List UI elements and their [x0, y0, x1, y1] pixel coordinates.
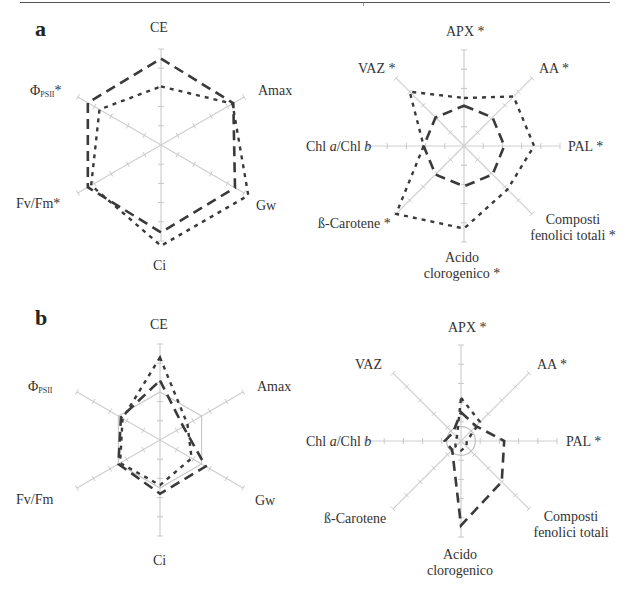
axis-label-acido: Acidoclorogenico * — [412, 250, 512, 282]
axis-label-carotene-b: ß-Carotene — [324, 511, 386, 527]
axis-label-pal-b: PAL * — [566, 434, 601, 450]
axis-label-aa: AA * — [539, 61, 569, 77]
series-dashed — [118, 380, 205, 493]
series-dotted — [91, 86, 248, 245]
axis-label-amax-b: Amax — [257, 379, 291, 395]
axis-label-gw: Gw — [256, 198, 276, 214]
axis-label-ce-b: CE — [150, 317, 168, 333]
axis-label-vaz: VAZ * — [358, 61, 395, 77]
series-dotted — [120, 357, 191, 485]
axis-label-ce: CE — [150, 20, 168, 36]
axis-label-chl: Chl a/Chl b — [306, 139, 371, 155]
axis-label-ci-b: Ci — [153, 553, 166, 569]
axis-label-phipsii-b: ΦPSII — [28, 379, 52, 399]
axis-label-chl-b: Chl a/Chl b — [306, 434, 371, 450]
axis-label-apx-b: APX * — [448, 320, 487, 336]
axis-label-gw-b: Gw — [255, 493, 275, 509]
axis-line — [78, 97, 161, 145]
axis-label-phipsii: ΦPSII* — [30, 83, 61, 103]
axis-line — [396, 146, 464, 214]
axis-line — [161, 145, 244, 193]
axis-label-composti: Compostifenolici totali * — [523, 212, 623, 244]
axis-line — [396, 78, 464, 146]
axis-line — [464, 78, 532, 146]
axis-label-composti-b: Compostifenolici totali — [521, 509, 621, 541]
radar-chart-1 — [76, 49, 248, 246]
axis-label-carotene: ß-Carotene * — [318, 216, 391, 232]
radar-chart-3 — [75, 344, 244, 536]
axis-label-vaz-b: VAZ — [355, 357, 382, 373]
axis-line — [464, 146, 532, 214]
axis-label-ci: Ci — [153, 258, 166, 274]
axis-label-fvfm: Fv/Fm* — [16, 196, 60, 212]
axis-label-fvfm-b: Fv/Fm — [16, 492, 53, 508]
axis-line — [78, 145, 161, 193]
axis-label-aa-b: AA * — [537, 357, 567, 373]
radar-charts-svg — [0, 0, 632, 589]
axis-label-amax: Amax — [258, 83, 292, 99]
panel-letter-b: b — [35, 305, 47, 331]
axis-label-apx: APX * — [446, 24, 485, 40]
axis-label-acido-b: Acidoclorogenico — [410, 547, 510, 579]
axis-label-pal: PAL * — [568, 139, 603, 155]
panel-letter-a: a — [35, 16, 46, 42]
series-dotted — [396, 92, 534, 229]
